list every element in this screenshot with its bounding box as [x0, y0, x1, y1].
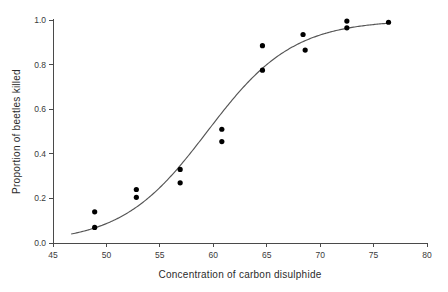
data-point — [260, 43, 265, 48]
x-tick-label: 70 — [315, 250, 325, 260]
y-axis-title: Proportion of beetles killed — [11, 69, 22, 194]
data-point — [92, 225, 97, 230]
data-point — [178, 167, 183, 172]
data-point — [344, 25, 349, 30]
x-tick-label: 50 — [102, 250, 112, 260]
data-point — [386, 20, 391, 25]
y-tick-label: 0.0 — [34, 238, 46, 248]
y-tick-label: 1.0 — [34, 15, 46, 25]
x-axis-title: Concentration of carbon disulphide — [158, 269, 321, 280]
x-tick-label: 75 — [369, 250, 379, 260]
y-tick-label: 0.8 — [34, 60, 46, 70]
data-point — [303, 48, 308, 53]
beetle-mortality-figure: 0.00.20.40.60.81.04550556065707580Concen… — [0, 0, 448, 292]
x-tick-label: 60 — [209, 250, 219, 260]
x-tick-label: 80 — [422, 250, 432, 260]
data-point — [219, 127, 224, 132]
data-point — [134, 187, 139, 192]
y-tick-label: 0.6 — [34, 104, 46, 114]
x-tick-label: 55 — [155, 250, 165, 260]
data-point — [134, 195, 139, 200]
y-tick-label: 0.2 — [34, 193, 46, 203]
plot-area: 0.00.20.40.60.81.04550556065707580Concen… — [0, 0, 448, 292]
x-tick-label: 45 — [48, 250, 58, 260]
y-tick-label: 0.4 — [34, 149, 46, 159]
data-point — [92, 209, 97, 214]
data-point — [344, 19, 349, 24]
fitted-logistic-curve — [71, 23, 391, 234]
data-point — [300, 32, 305, 37]
data-point — [260, 68, 265, 73]
x-tick-label: 65 — [262, 250, 272, 260]
data-point — [219, 139, 224, 144]
data-point — [178, 180, 183, 185]
